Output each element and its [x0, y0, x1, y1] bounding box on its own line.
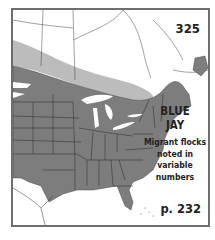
note-line: noted in — [143, 149, 207, 161]
species-name: BLUE JAY — [150, 104, 201, 132]
note-line: Migrant flocks — [143, 137, 207, 149]
range-note: Migrant flocks noted in variable numbers — [143, 137, 207, 183]
species-name-line1: BLUE — [150, 104, 201, 118]
page-reference: p. 232 — [160, 202, 201, 216]
note-line: variable — [143, 160, 207, 172]
species-name-line2: JAY — [150, 118, 201, 132]
newfoundland — [193, 56, 208, 76]
note-line: numbers — [143, 172, 207, 184]
map-number: 325 — [176, 21, 200, 36]
